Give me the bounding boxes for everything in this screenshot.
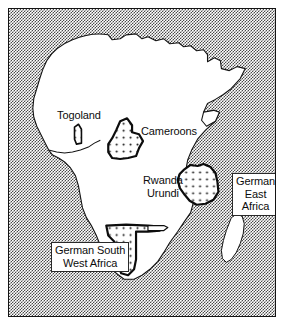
map-frame: Togoland Cameroons Rwanda Urundi German … (8, 8, 276, 317)
label-german-east-africa-line1: German (236, 175, 275, 188)
horn-of-africa (202, 110, 220, 126)
label-rwanda-urundi-line2: Urundi (143, 187, 183, 200)
label-german-south-west-africa-line2: West Africa (55, 257, 125, 270)
caprivi-strip (148, 226, 168, 231)
label-rwanda-urundi: Rwanda Urundi (143, 174, 183, 199)
label-german-south-west-africa-line1: German South (55, 244, 125, 257)
label-german-south-west-africa: German South West Africa (51, 242, 129, 272)
label-cameroons: Cameroons (141, 125, 197, 138)
label-german-east-africa-line2: East (236, 188, 275, 201)
map-vector-layer (9, 9, 275, 316)
madagascar-island (221, 214, 244, 263)
label-german-east-africa-line3: Africa (236, 200, 275, 213)
label-german-east-africa: German East Africa (232, 173, 276, 216)
map-figure: Togoland Cameroons Rwanda Urundi German … (0, 0, 284, 325)
label-togoland: Togoland (57, 109, 101, 122)
territory-togoland (75, 124, 82, 144)
label-rwanda-urundi-line1: Rwanda (143, 174, 183, 187)
